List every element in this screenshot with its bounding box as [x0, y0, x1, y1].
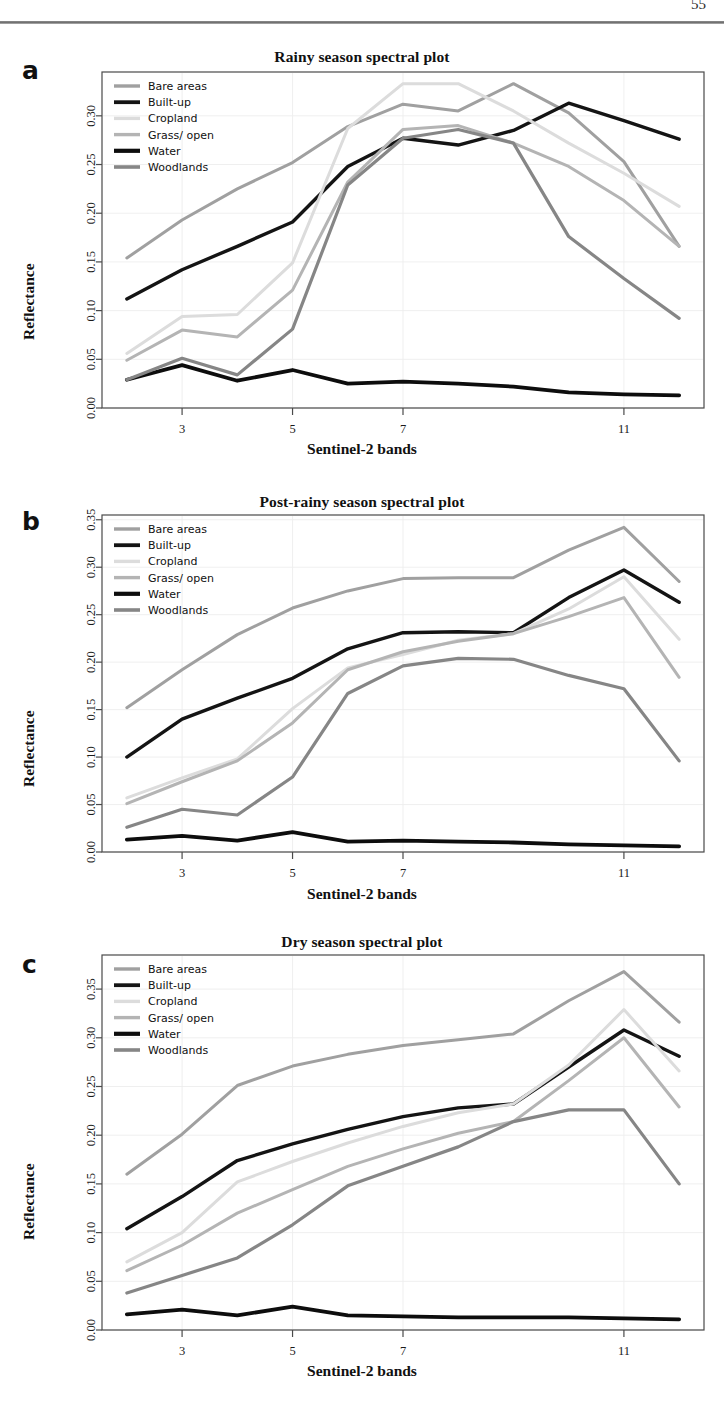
y-tick-label: 0.25: [84, 604, 98, 626]
legend-label-woodlands: Woodlands: [148, 161, 208, 174]
legend-label-cropland: Cropland: [148, 555, 197, 568]
y-tick-label: 0.10: [84, 300, 98, 322]
legend-label-grass_open: Grass/ open: [148, 572, 214, 585]
panel-b: b Post-rainy season spectral plot Reflec…: [0, 487, 724, 917]
x-tick-label: 5: [289, 1344, 295, 1358]
panel-a: a Rainy season spectral plot Reflectance…: [0, 40, 724, 470]
x-axis-title-a: Sentinel-2 bands: [0, 440, 724, 458]
y-tick-label: 0.00: [84, 841, 98, 863]
legend-label-cropland: Cropland: [148, 112, 197, 125]
x-tick-label: 3: [179, 1344, 185, 1358]
page-number: 55: [691, 0, 706, 13]
y-tick-label: 0.20: [84, 202, 98, 224]
x-axis-title-c: Sentinel-2 bands: [0, 1362, 724, 1380]
legend-label-water: Water: [148, 145, 181, 158]
y-tick-label: 0.05: [84, 348, 98, 370]
x-tick-label: 5: [289, 866, 295, 880]
y-tick-label: 0.30: [84, 556, 98, 578]
x-tick-label: 5: [289, 422, 295, 436]
legend-label-bare_areas: Bare areas: [148, 80, 207, 93]
y-tick-label: 0.35: [84, 509, 98, 531]
legend-label-grass_open: Grass/ open: [148, 129, 214, 142]
y-tick-label: 0.00: [84, 397, 98, 419]
legend-label-built_up: Built-up: [148, 539, 191, 552]
legend-label-woodlands: Woodlands: [148, 604, 208, 617]
y-tick-label: 0.05: [84, 1270, 98, 1292]
x-tick-label: 11: [618, 422, 630, 436]
y-tick-label: 0.15: [84, 251, 98, 273]
y-tick-label: 0.00: [84, 1319, 98, 1341]
legend-label-built_up: Built-up: [148, 979, 191, 992]
y-tick-label: 0.30: [84, 105, 98, 127]
legend-label-water: Water: [148, 588, 181, 601]
y-tick-label: 0.25: [84, 154, 98, 176]
chart-b: 0.000.050.100.150.200.250.300.3535711Bar…: [0, 487, 724, 917]
x-tick-label: 7: [400, 1344, 406, 1358]
x-tick-label: 11: [618, 1344, 630, 1358]
x-tick-label: 3: [179, 422, 185, 436]
x-tick-label: 7: [400, 866, 406, 880]
y-tick-label: 0.30: [84, 1027, 98, 1049]
legend-label-water: Water: [148, 1028, 181, 1041]
legend-label-grass_open: Grass/ open: [148, 1012, 214, 1025]
y-tick-label: 0.05: [84, 794, 98, 816]
chart-a: 0.000.050.100.150.200.250.3035711Bare ar…: [0, 40, 724, 470]
legend-label-built_up: Built-up: [148, 96, 191, 109]
y-tick-label: 0.20: [84, 1124, 98, 1146]
legend-label-bare_areas: Bare areas: [148, 963, 207, 976]
x-axis-title-b: Sentinel-2 bands: [0, 885, 724, 903]
x-tick-label: 11: [618, 866, 630, 880]
y-tick-label: 0.35: [84, 978, 98, 1000]
header-rule: [0, 21, 724, 24]
y-tick-label: 0.25: [84, 1076, 98, 1098]
x-tick-label: 7: [400, 422, 406, 436]
y-tick-label: 0.10: [84, 746, 98, 768]
legend-label-cropland: Cropland: [148, 995, 197, 1008]
y-tick-label: 0.15: [84, 699, 98, 721]
legend-label-bare_areas: Bare areas: [148, 523, 207, 536]
y-tick-label: 0.10: [84, 1222, 98, 1244]
x-tick-label: 3: [179, 866, 185, 880]
panel-c: c Dry season spectral plot Reflectance 0…: [0, 925, 724, 1395]
y-tick-label: 0.20: [84, 651, 98, 673]
chart-c: 0.000.050.100.150.200.250.300.3535711Bar…: [0, 925, 724, 1395]
legend-label-woodlands: Woodlands: [148, 1044, 208, 1057]
y-tick-label: 0.15: [84, 1173, 98, 1195]
